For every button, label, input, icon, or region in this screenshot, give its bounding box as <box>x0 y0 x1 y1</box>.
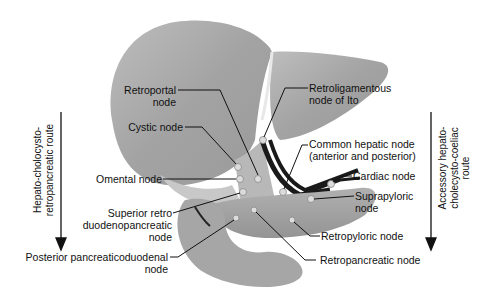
node-superior-retro <box>240 189 247 196</box>
label-retroligamentous: Retroligamentous node of Ito <box>309 82 391 106</box>
right-route-label: Accessory hepato- cholecysto-coeliac rou… <box>437 113 473 223</box>
node-suprapyloric <box>308 196 315 203</box>
label-posterior-pancreaticoduodenal: Posterior pancreaticoduodenal node <box>10 251 168 275</box>
label-line: node <box>355 202 413 214</box>
label-line: node of Ito <box>309 94 391 106</box>
label-cystic: Cystic node <box>103 121 183 133</box>
label-common-hepatic: Common hepatic node (anterior and poster… <box>309 138 416 162</box>
label-line: (anterior and posterior) <box>309 150 416 162</box>
label-line: node <box>60 231 172 243</box>
label-line: node <box>10 263 168 275</box>
label-line: Retropyloric node <box>321 230 403 242</box>
label-retroportal: Retroportal node <box>106 84 176 108</box>
label-retropancreatic: Retropancreatic node <box>320 254 420 266</box>
label-line: route <box>460 113 472 223</box>
label-line: Retroligamentous <box>309 82 391 94</box>
label-line: Retroportal <box>106 84 176 96</box>
label-line: retropancreatic route <box>44 110 56 230</box>
label-line: Common hepatic node <box>309 138 416 150</box>
label-line: Posterior pancreaticoduodenal <box>10 251 168 263</box>
label-omental: Omental node <box>80 173 162 185</box>
label-line: duodenopancreatic <box>60 219 172 231</box>
label-line: Cardiac node <box>353 170 415 182</box>
node-retroligamentous <box>260 137 267 144</box>
node-common-hepatic <box>280 189 287 196</box>
label-line: Hepato-cholocysto- <box>32 110 44 230</box>
label-line: node <box>106 96 176 108</box>
label-line: Superior retro <box>60 207 172 219</box>
node-retroportal <box>255 176 262 183</box>
node-omental <box>237 176 244 183</box>
label-retropyloric: Retropyloric node <box>321 230 403 242</box>
label-line: Cystic node <box>103 121 183 133</box>
label-line: cholecysto-coeliac <box>449 113 461 223</box>
label-line: Suprapyloric <box>355 190 413 202</box>
node-cystic <box>235 164 242 171</box>
label-cardiac: Cardiac node <box>353 170 415 182</box>
diagram-canvas: Retroportal node Cystic node Omental nod… <box>0 0 490 305</box>
label-line: Accessory hepato- <box>437 113 449 223</box>
right-route-arrowhead <box>426 238 436 250</box>
label-line: Retropancreatic node <box>320 254 420 266</box>
label-line: Omental node <box>80 173 162 185</box>
left-route-label: Hepato-cholocysto- retropancreatic route <box>32 110 58 230</box>
label-superior-retro: Superior retro duodenopancreatic node <box>60 207 172 243</box>
label-suprapyloric: Suprapyloric node <box>355 190 413 214</box>
